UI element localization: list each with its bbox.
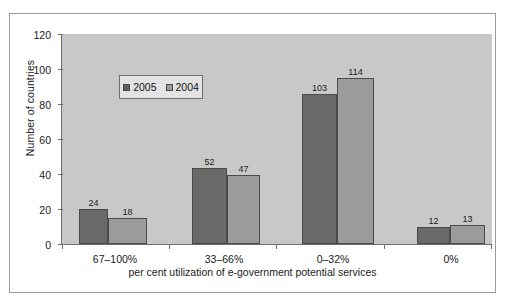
x-axis-title: per cent utilization of e-government pot… <box>10 266 495 278</box>
x-tick-mark-3 <box>384 244 385 249</box>
y-tick-mark <box>58 139 63 140</box>
legend-swatch-2005-icon <box>123 84 130 91</box>
legend-entry-2004: 2004 <box>166 81 199 93</box>
legend-entry-2005: 2005 <box>123 81 156 93</box>
y-tick-120: 120 <box>33 25 62 43</box>
bar-value-label: 47 <box>238 164 248 174</box>
x-group-label-0: 0% <box>443 253 458 265</box>
bar-value-label: 52 <box>204 157 214 167</box>
bar-value-label: 103 <box>312 83 327 93</box>
bar-2004-0: 13 <box>450 225 485 244</box>
plot-area: 120 100 80 60 40 20 0 24 18 <box>61 34 492 245</box>
y-tick-label: 80 <box>39 99 58 111</box>
bar-2005-33-66: 52 <box>192 168 227 244</box>
x-group-label-0-32: 0–32% <box>317 253 350 265</box>
bar-value-label: 24 <box>88 198 98 208</box>
legend-label-2004: 2004 <box>176 81 199 93</box>
chart-figure: Number of countries 120 100 80 60 40 20 … <box>9 13 496 293</box>
y-tick-label: 20 <box>39 204 58 216</box>
legend-label-2005: 2005 <box>133 81 156 93</box>
x-tick-mark-1 <box>169 244 170 249</box>
y-tick-label: 60 <box>39 134 58 146</box>
x-group-label-67-100: 67–100% <box>93 253 137 265</box>
chart-legend: 2005 2004 <box>119 75 203 99</box>
bar-2004-0-32: 114 <box>337 78 374 244</box>
bar-2005-0: 12 <box>417 227 450 245</box>
y-tick-mark <box>58 69 63 70</box>
x-group-label-33-66: 33–66% <box>205 253 244 265</box>
bar-2005-0-32: 103 <box>302 94 337 244</box>
bar-2004-67-100: 18 <box>108 218 147 244</box>
y-tick-label: 120 <box>33 29 58 41</box>
y-tick-80: 80 <box>39 95 62 113</box>
y-tick-mark <box>58 104 63 105</box>
y-tick-40: 40 <box>39 165 62 183</box>
y-tick-label: 0 <box>45 239 58 251</box>
x-tick-mark-4 <box>491 244 492 249</box>
y-tick-mark <box>58 174 63 175</box>
bar-value-label: 18 <box>122 207 132 217</box>
x-tick-mark-0 <box>62 244 63 249</box>
bar-value-label: 12 <box>428 216 438 226</box>
x-tick-mark-2 <box>276 244 277 249</box>
y-tick-60: 60 <box>39 130 62 148</box>
y-tick-mark <box>58 209 63 210</box>
bar-value-label: 13 <box>462 214 472 224</box>
bar-2004-33-66: 47 <box>227 175 260 244</box>
y-tick-mark <box>58 34 63 35</box>
legend-swatch-2004-icon <box>166 84 173 91</box>
y-tick-20: 20 <box>39 200 62 218</box>
bar-2005-67-100: 24 <box>79 209 108 244</box>
y-tick-100: 100 <box>33 60 62 78</box>
bar-value-label: 114 <box>348 67 362 77</box>
y-tick-0: 0 <box>45 235 62 253</box>
y-tick-label: 100 <box>33 64 58 76</box>
y-tick-label: 40 <box>39 169 58 181</box>
